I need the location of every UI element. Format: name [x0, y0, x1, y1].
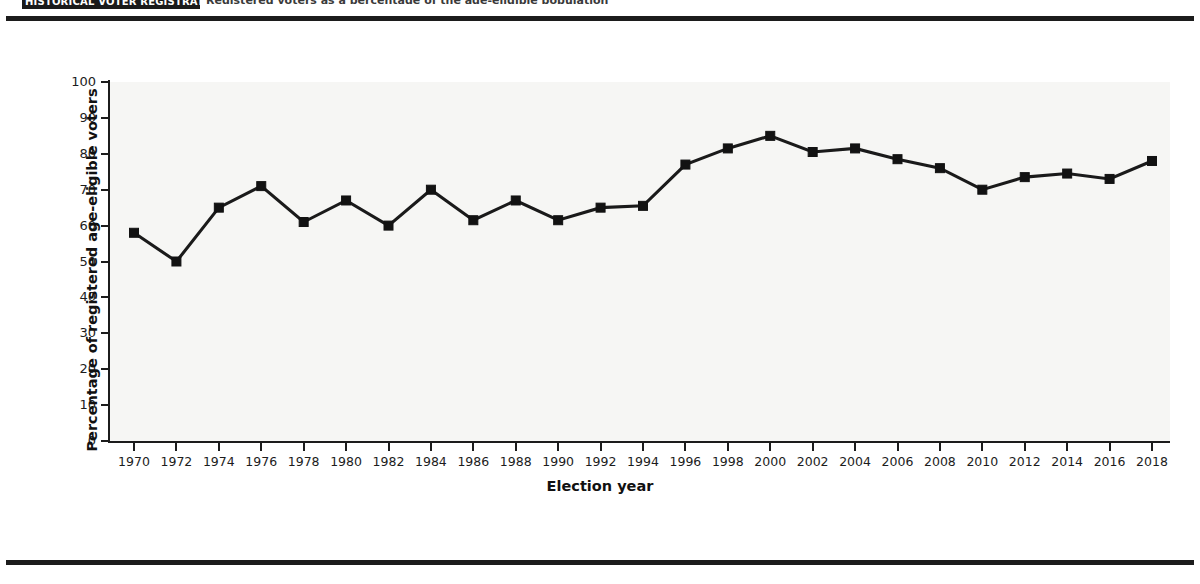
x-tick-label: 1972	[152, 455, 200, 469]
x-axis-line	[108, 441, 1170, 443]
y-tick-mark	[101, 332, 109, 334]
x-tick-mark	[218, 443, 220, 451]
x-tick-mark	[812, 443, 814, 451]
x-tick-label: 2012	[1001, 455, 1049, 469]
y-tick-mark	[101, 296, 109, 298]
y-tick-mark	[101, 189, 109, 191]
x-tick-mark	[430, 443, 432, 451]
x-tick-mark	[388, 443, 390, 451]
x-tick-label: 1992	[577, 455, 625, 469]
x-tick-label: 2018	[1128, 455, 1176, 469]
x-tick-label: 2008	[916, 455, 964, 469]
x-tick-label: 1986	[449, 455, 497, 469]
x-tick-mark	[175, 443, 177, 451]
x-tick-label: 1984	[407, 455, 455, 469]
x-tick-mark	[1024, 443, 1026, 451]
y-axis-title: Percentage of registered age-eligible vo…	[84, 70, 100, 470]
x-tick-mark	[557, 443, 559, 451]
y-tick-mark	[101, 368, 109, 370]
x-tick-label: 1974	[195, 455, 243, 469]
x-tick-label: 1990	[534, 455, 582, 469]
x-tick-mark	[769, 443, 771, 451]
y-tick-mark	[101, 117, 109, 119]
x-tick-mark	[303, 443, 305, 451]
x-tick-mark	[684, 443, 686, 451]
x-tick-mark	[981, 443, 983, 451]
x-tick-label: 1982	[365, 455, 413, 469]
plot-area	[110, 82, 1170, 441]
banner-title-text: HISTORICAL VOTER REGISTRATION	[22, 0, 200, 7]
x-tick-label: 1988	[492, 455, 540, 469]
x-tick-mark	[1151, 443, 1153, 451]
x-tick-mark	[854, 443, 856, 451]
x-tick-label: 1976	[237, 455, 285, 469]
x-axis-title: Election year	[0, 478, 1200, 494]
x-tick-mark	[260, 443, 262, 451]
x-tick-mark	[939, 443, 941, 451]
divider-top	[6, 16, 1194, 21]
x-tick-mark	[897, 443, 899, 451]
x-tick-mark	[1066, 443, 1068, 451]
x-tick-label: 2014	[1043, 455, 1091, 469]
x-tick-label: 2016	[1086, 455, 1134, 469]
x-tick-mark	[727, 443, 729, 451]
x-tick-label: 2000	[746, 455, 794, 469]
x-tick-mark	[1109, 443, 1111, 451]
y-tick-mark	[101, 261, 109, 263]
x-tick-label: 1996	[661, 455, 709, 469]
y-tick-mark	[101, 225, 109, 227]
figure-title-clipped: Registered voters as a percentage of the…	[206, 0, 626, 4]
x-tick-label: 1994	[619, 455, 667, 469]
divider-bottom	[6, 560, 1194, 565]
x-tick-label: 2004	[831, 455, 879, 469]
x-tick-mark	[642, 443, 644, 451]
x-tick-mark	[472, 443, 474, 451]
x-tick-label: 1998	[704, 455, 752, 469]
x-tick-label: 2010	[958, 455, 1006, 469]
y-tick-mark	[101, 404, 109, 406]
x-tick-mark	[515, 443, 517, 451]
x-tick-label: 1980	[322, 455, 370, 469]
x-tick-mark	[600, 443, 602, 451]
x-tick-label: 2006	[874, 455, 922, 469]
y-tick-mark	[101, 81, 109, 83]
x-tick-label: 2002	[789, 455, 837, 469]
x-tick-label: 1978	[280, 455, 328, 469]
y-tick-mark	[101, 440, 109, 442]
title-banner: HISTORICAL VOTER REGISTRATION	[22, 0, 200, 9]
x-tick-mark	[345, 443, 347, 451]
chart-page: HISTORICAL VOTER REGISTRATION Registered…	[0, 0, 1200, 584]
y-tick-mark	[101, 153, 109, 155]
x-tick-label: 1970	[110, 455, 158, 469]
x-tick-mark	[133, 443, 135, 451]
